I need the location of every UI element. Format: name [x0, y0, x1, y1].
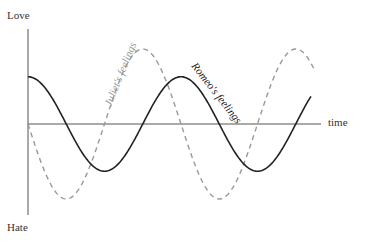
- chart-canvas: Juliet's feelings Romeo's feelings: [0, 0, 369, 245]
- romeo-label: Romeo's feelings: [189, 59, 245, 126]
- juliet-label: Juliet's feelings: [102, 40, 139, 108]
- x-label-time: time: [328, 116, 348, 128]
- y-label-love: Love: [7, 9, 30, 21]
- y-label-hate: Hate: [7, 221, 28, 233]
